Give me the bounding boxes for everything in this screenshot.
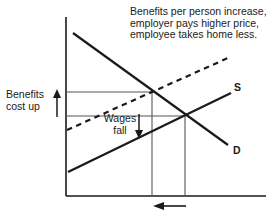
supply-curve-label: S	[234, 82, 241, 94]
diagram-annotation-text: Benefits per person increase, employer p…	[130, 6, 267, 41]
shifted-supply-curve	[67, 58, 228, 130]
benefits-cost-up-label: Benefits cost up	[6, 89, 44, 112]
supply-demand-diagram: Benefits per person increase, employer p…	[0, 0, 272, 213]
quantity-decrease-arrow	[153, 202, 186, 210]
supply-curve	[68, 93, 231, 172]
demand-curve	[73, 33, 228, 145]
benefits-cost-up-arrow	[53, 89, 61, 117]
demand-curve-label: D	[233, 145, 241, 157]
wages-fall-label: Wages fall	[98, 113, 142, 136]
